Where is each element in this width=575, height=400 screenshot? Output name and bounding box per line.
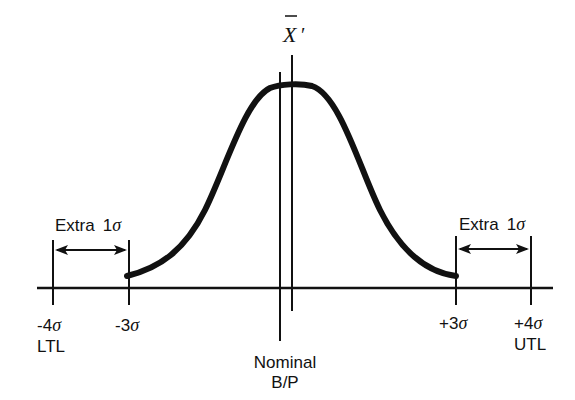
right-extra-label: Extra 1σ <box>459 214 526 234</box>
tick-label-minus4: -4σ <box>37 315 62 335</box>
tick-label-minus3: -3σ <box>115 315 140 335</box>
utl-label: UTL <box>514 335 546 354</box>
svg-text:′: ′ <box>301 24 305 46</box>
ltl-label: LTL <box>37 337 65 356</box>
bp-label: B/P <box>271 373 298 392</box>
tick-label-plus3: +3σ <box>439 313 468 333</box>
normal-distribution-diagram: X ′ Extra 1σ Extra 1σ -4σ LTL -3σ +3σ +4… <box>0 0 575 400</box>
left-extra-arrow <box>55 245 127 255</box>
mean-symbol: X ′ <box>282 16 305 47</box>
right-extra-arrow <box>458 244 529 254</box>
svg-text:X: X <box>282 22 298 47</box>
tick-label-plus4: +4σ <box>514 313 543 333</box>
nominal-label: Nominal <box>254 353 316 372</box>
left-extra-label: Extra 1σ <box>55 215 122 235</box>
